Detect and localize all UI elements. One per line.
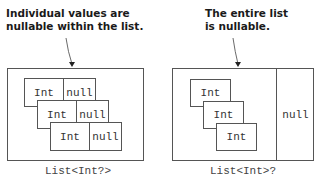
right-arrow-icon (233, 38, 238, 64)
left-arrow-icon (66, 38, 72, 64)
list-null: null (277, 68, 314, 161)
right-annotation-line2: is nullable. (205, 20, 288, 33)
left-annotation-line2: nullable within the list. (6, 20, 143, 33)
left-caption: List<Int?> (45, 165, 111, 177)
item-value: Int (217, 124, 256, 150)
left-annotation: Individual values are nullable within th… (6, 7, 143, 33)
left-annotation-line1: Individual values are (6, 7, 143, 20)
right-caption: List<Int>? (210, 165, 276, 177)
right-item-3: Int (216, 123, 257, 151)
left-item-3: Int null (50, 122, 122, 151)
item-value: Int (51, 123, 90, 150)
right-annotation: The entire list is nullable. (205, 7, 288, 33)
item-null: null (90, 123, 121, 150)
right-annotation-line1: The entire list (205, 7, 288, 20)
